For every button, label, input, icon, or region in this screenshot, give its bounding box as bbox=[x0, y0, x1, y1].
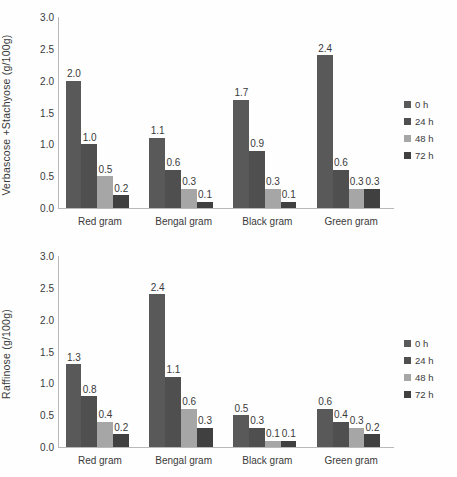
bar-value-label: 1.7 bbox=[234, 88, 248, 100]
bar[interactable]: 0.3 bbox=[349, 189, 365, 208]
legend-swatch-icon bbox=[404, 391, 411, 398]
bar[interactable]: 0.3 bbox=[197, 428, 213, 447]
bar[interactable]: 0.3 bbox=[181, 189, 197, 208]
chart-panel-verbascose-stachyose: Verbascose +Stachyose (g/100g) 3.02.52.0… bbox=[0, 0, 457, 238]
legend-bottom: 0 h24 h48 h72 h bbox=[404, 335, 434, 403]
bar[interactable]: 0.1 bbox=[265, 441, 281, 447]
bars-container: 1.70.90.30.1 bbox=[227, 17, 311, 208]
legend-item[interactable]: 72 h bbox=[404, 147, 434, 164]
y-tick-label: 2.0 bbox=[40, 75, 54, 86]
x-category-label: Green gram bbox=[309, 216, 393, 227]
bar[interactable]: 0.5 bbox=[97, 176, 113, 208]
y-tick-label: 1.0 bbox=[40, 378, 54, 389]
legend-label: 48 h bbox=[415, 133, 434, 144]
legend-item[interactable]: 0 h bbox=[404, 96, 434, 113]
y-axis-title-top: Verbascose +Stachyose (g/100g) bbox=[0, 0, 16, 234]
legend-item[interactable]: 48 h bbox=[404, 369, 434, 386]
bar[interactable]: 0.6 bbox=[333, 170, 349, 208]
legend-label: 0 h bbox=[415, 99, 428, 110]
bars-container: 0.60.40.30.2 bbox=[310, 256, 394, 447]
bars-container: 2.41.10.60.3 bbox=[143, 256, 227, 447]
bar[interactable]: 0.2 bbox=[364, 434, 380, 447]
bar[interactable]: 0.4 bbox=[333, 422, 349, 447]
legend-item[interactable]: 72 h bbox=[404, 386, 434, 403]
y-tick-label: 0.5 bbox=[40, 171, 54, 182]
bar-groups-top: 2.01.00.50.21.10.60.30.11.70.90.30.12.40… bbox=[59, 17, 394, 208]
bar[interactable]: 1.1 bbox=[149, 138, 165, 208]
bar[interactable]: 1.1 bbox=[165, 377, 181, 447]
bar[interactable]: 0.1 bbox=[281, 202, 297, 208]
legend-top: 0 h24 h48 h72 h bbox=[404, 96, 434, 164]
bar-value-label: 0.5 bbox=[234, 404, 248, 416]
legend-label: 24 h bbox=[415, 116, 434, 127]
bar-value-label: 0.3 bbox=[182, 177, 196, 189]
bar-group: 0.60.40.30.2 bbox=[310, 256, 394, 447]
legend-swatch-icon bbox=[404, 357, 411, 364]
legend-item[interactable]: 24 h bbox=[404, 113, 434, 130]
bar-group: 1.10.60.30.1 bbox=[143, 17, 227, 208]
bar-value-label: 2.4 bbox=[151, 283, 165, 295]
bar[interactable]: 2.4 bbox=[149, 294, 165, 447]
bar-group: 2.41.10.60.3 bbox=[143, 256, 227, 447]
y-tick-label: 2.5 bbox=[40, 282, 54, 293]
y-tick-label: 0.5 bbox=[40, 410, 54, 421]
bar-value-label: 0.6 bbox=[318, 397, 332, 409]
bar-group: 0.50.30.10.1 bbox=[227, 256, 311, 447]
bar-value-label: 0.8 bbox=[83, 385, 97, 397]
bar-value-label: 1.1 bbox=[151, 126, 165, 138]
bar[interactable]: 1.3 bbox=[66, 364, 82, 447]
bar[interactable]: 2.0 bbox=[66, 81, 82, 208]
y-axis-tick-labels-top: 3.02.52.01.51.00.50.0 bbox=[24, 17, 54, 208]
bars-container: 2.01.00.50.2 bbox=[59, 17, 143, 208]
bar-value-label: 0.4 bbox=[98, 410, 112, 422]
legend-swatch-icon bbox=[404, 135, 411, 142]
bar[interactable]: 0.3 bbox=[249, 428, 265, 447]
bar[interactable]: 0.6 bbox=[317, 409, 333, 447]
bar-value-label: 0.1 bbox=[266, 429, 280, 441]
bar-group: 1.30.80.40.2 bbox=[59, 256, 143, 447]
bar[interactable]: 0.5 bbox=[233, 415, 249, 447]
bar-value-label: 0.3 bbox=[366, 177, 380, 189]
legend-swatch-icon bbox=[404, 374, 411, 381]
bar[interactable]: 0.1 bbox=[281, 441, 297, 447]
bar[interactable]: 0.6 bbox=[181, 409, 197, 447]
bar[interactable]: 0.8 bbox=[81, 396, 97, 447]
bar[interactable]: 2.4 bbox=[317, 55, 333, 208]
bar[interactable]: 0.1 bbox=[197, 202, 213, 208]
bars-container: 1.30.80.40.2 bbox=[59, 256, 143, 447]
bar-value-label: 0.5 bbox=[98, 165, 112, 177]
x-category-label: Red gram bbox=[58, 216, 142, 227]
bars-container: 1.10.60.30.1 bbox=[143, 17, 227, 208]
bar[interactable]: 0.2 bbox=[113, 195, 129, 208]
legend-swatch-icon bbox=[404, 101, 411, 108]
x-category-label: Green gram bbox=[309, 455, 393, 466]
y-tick-label: 1.0 bbox=[40, 139, 54, 150]
bar[interactable]: 1.0 bbox=[81, 144, 97, 208]
bar-value-label: 0.3 bbox=[350, 416, 364, 428]
bar-value-label: 2.4 bbox=[318, 44, 332, 56]
bar[interactable]: 0.3 bbox=[364, 189, 380, 208]
bar[interactable]: 0.3 bbox=[265, 189, 281, 208]
bar-group: 2.01.00.50.2 bbox=[59, 17, 143, 208]
bars-container: 2.40.60.30.3 bbox=[310, 17, 394, 208]
legend-item[interactable]: 24 h bbox=[404, 352, 434, 369]
y-tick-label: 2.5 bbox=[40, 43, 54, 54]
bar-value-label: 0.9 bbox=[250, 139, 264, 151]
bar[interactable]: 0.9 bbox=[249, 151, 265, 208]
bar-value-label: 1.0 bbox=[83, 133, 97, 145]
x-axis-category-labels-top: Red gramBengal gramBlack gramGreen gram bbox=[58, 216, 393, 227]
bar[interactable]: 0.4 bbox=[97, 422, 113, 447]
bar-group: 2.40.60.30.3 bbox=[310, 17, 394, 208]
y-axis-title-bottom: Raffinose (g/100g) bbox=[0, 235, 16, 473]
bar[interactable]: 0.2 bbox=[113, 434, 129, 447]
x-axis-category-labels-bottom: Red gramBengal gramBlack gramGreen gram bbox=[58, 455, 393, 466]
bar[interactable]: 0.6 bbox=[165, 170, 181, 208]
bar[interactable]: 1.7 bbox=[233, 100, 249, 208]
legend-item[interactable]: 0 h bbox=[404, 335, 434, 352]
bar[interactable]: 0.3 bbox=[349, 428, 365, 447]
bar-value-label: 0.3 bbox=[250, 416, 264, 428]
legend-swatch-icon bbox=[404, 118, 411, 125]
bar-value-label: 0.2 bbox=[114, 184, 128, 196]
legend-item[interactable]: 48 h bbox=[404, 130, 434, 147]
bar-groups-bottom: 1.30.80.40.22.41.10.60.30.50.30.10.10.60… bbox=[59, 256, 394, 447]
